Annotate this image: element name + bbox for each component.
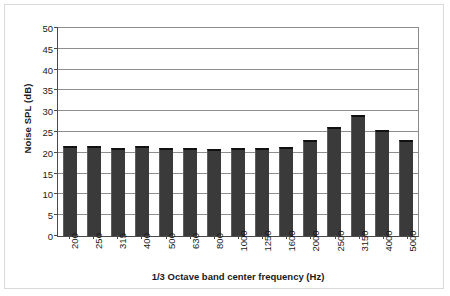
bar-slot — [154, 28, 178, 236]
bar — [255, 148, 270, 236]
y-tick-label: 35 — [42, 85, 53, 96]
x-tick-label: 200 — [69, 233, 80, 249]
bar-slot — [178, 28, 202, 236]
bar — [399, 140, 414, 236]
bar — [351, 115, 366, 236]
bar — [111, 148, 126, 236]
x-tick-slot: 2500 — [323, 239, 347, 275]
bar-slot — [202, 28, 226, 236]
y-tick-label: 5 — [48, 210, 53, 221]
bar-slot — [82, 28, 106, 236]
bar — [279, 147, 294, 236]
x-tick-label: 2500 — [335, 230, 346, 251]
x-tick-slot: 800 — [202, 239, 226, 275]
chart-figure-frame: Noise SPL (dB) 05101520253035404550 2002… — [4, 4, 444, 289]
bar — [303, 140, 318, 236]
x-tick-slot: 630 — [178, 239, 202, 275]
x-tick-label: 5000 — [407, 230, 418, 251]
bar — [327, 127, 342, 236]
y-axis-title: Noise SPL (dB) — [22, 59, 33, 179]
x-tick-slot: 4000 — [371, 239, 395, 275]
bar-slot — [322, 28, 346, 236]
bar — [63, 146, 78, 236]
x-tick-label: 1600 — [286, 230, 297, 251]
bar-slot — [274, 28, 298, 236]
y-tick-label: 10 — [42, 189, 53, 200]
x-tick-slot: 3150 — [347, 239, 371, 275]
y-tick-label: 45 — [42, 43, 53, 54]
y-tick-label: 15 — [42, 168, 53, 179]
x-axis-tick-labels: 2002503154005006308001000125016002000250… — [57, 239, 419, 275]
bar-slot — [394, 28, 418, 236]
y-tick-label: 50 — [42, 23, 53, 34]
y-tick-label: 25 — [42, 127, 53, 138]
plot-area: 05101520253035404550 — [57, 27, 419, 237]
x-tick-label: 1000 — [238, 230, 249, 251]
bars-layer — [58, 28, 418, 236]
bar-slot — [250, 28, 274, 236]
x-tick-label: 800 — [214, 233, 225, 249]
bar-slot — [226, 28, 250, 236]
x-tick-label: 250 — [93, 233, 104, 249]
bar-slot — [130, 28, 154, 236]
x-tick-slot: 200 — [57, 239, 81, 275]
x-tick-label: 500 — [166, 233, 177, 249]
y-tick-label: 20 — [42, 147, 53, 158]
x-tick-label: 400 — [141, 233, 152, 249]
x-tick-slot: 500 — [154, 239, 178, 275]
x-tick-label: 2000 — [310, 230, 321, 251]
x-tick-slot: 5000 — [395, 239, 419, 275]
bar — [231, 148, 246, 236]
y-tick-label: 40 — [42, 64, 53, 75]
x-tick-label: 3150 — [359, 230, 370, 251]
bar — [159, 148, 174, 236]
bar-slot — [106, 28, 130, 236]
x-tick-slot: 1000 — [226, 239, 250, 275]
bar — [87, 146, 102, 236]
y-tick-label: 0 — [48, 231, 53, 242]
x-axis-title: 1/3 Octave band center frequency (Hz) — [57, 271, 419, 282]
bar-slot — [58, 28, 82, 236]
x-tick-slot: 315 — [105, 239, 129, 275]
x-tick-label: 1250 — [262, 230, 273, 251]
x-tick-slot: 2000 — [298, 239, 322, 275]
y-tick-label: 30 — [42, 106, 53, 117]
bar — [375, 130, 390, 236]
x-tick-label: 630 — [190, 233, 201, 249]
x-tick-slot: 250 — [81, 239, 105, 275]
bar-slot — [370, 28, 394, 236]
x-tick-label: 4000 — [383, 230, 394, 251]
bar-slot — [298, 28, 322, 236]
x-tick-label: 315 — [117, 233, 128, 249]
bar — [207, 149, 222, 236]
x-tick-slot: 1600 — [274, 239, 298, 275]
bar-slot — [346, 28, 370, 236]
bar — [135, 146, 150, 236]
x-tick-slot: 1250 — [250, 239, 274, 275]
bar — [183, 148, 198, 236]
x-tick-slot: 400 — [129, 239, 153, 275]
